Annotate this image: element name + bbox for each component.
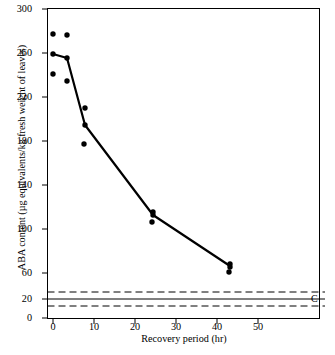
data-point <box>64 55 69 60</box>
control-reference-lines <box>48 292 326 306</box>
data-point <box>64 32 69 37</box>
data-point <box>50 71 55 76</box>
data-point <box>50 31 55 36</box>
data-point <box>226 269 231 274</box>
plot-frame <box>48 9 320 319</box>
data-point <box>82 122 87 127</box>
scatter-points <box>50 31 232 274</box>
chart-figure: ABA content (µg equivalents/kg fresh wei… <box>0 0 335 355</box>
data-point <box>150 212 155 217</box>
data-point <box>81 141 86 146</box>
x-axis-ticks <box>53 319 258 325</box>
mean-trend-line <box>53 54 230 266</box>
data-point <box>50 51 55 56</box>
data-point <box>227 264 232 269</box>
plot-canvas <box>0 0 335 355</box>
y-axis-ticks <box>42 9 48 318</box>
data-point <box>82 105 87 110</box>
data-point <box>149 219 154 224</box>
data-point <box>64 78 69 83</box>
